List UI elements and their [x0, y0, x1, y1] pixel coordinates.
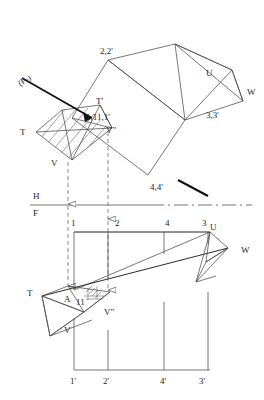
- station-label-2: 2: [115, 218, 120, 228]
- projection-figure: (P-) 2,2' 3,3' 4,4' 1,11,1' T' V" T V U …: [0, 0, 264, 400]
- front-label-v: V: [64, 325, 71, 335]
- station-label-3-prime: 3': [199, 376, 206, 386]
- station-label-2-prime: 2': [103, 376, 110, 386]
- technical-drawing-canvas: (P-) 2,2' 3,3' 4,4' 1,11,1' T' V" T V U …: [0, 0, 264, 400]
- label-u-top: U: [206, 68, 213, 78]
- front-label-v-dprime: V": [104, 307, 114, 317]
- label-w-top: W: [247, 87, 256, 97]
- front-label-a: A: [64, 294, 71, 304]
- front-label-t: T: [27, 288, 33, 298]
- label-v-top: V: [51, 158, 58, 168]
- label-t-prime-top: T': [96, 96, 103, 106]
- label-t-top: T: [20, 127, 26, 137]
- front-label-11: 11: [76, 297, 85, 307]
- label-1-11-1prime: 1,11,1': [86, 112, 110, 122]
- station-label-1-prime: 1': [70, 376, 77, 386]
- ground-line-label-f: F: [33, 208, 38, 218]
- station-label-1: 1: [71, 218, 76, 228]
- front-label-w: W: [241, 245, 250, 255]
- canvas-background: [0, 0, 264, 400]
- label-v-dprime-top: V": [106, 125, 116, 135]
- label-4-4prime: 4,4': [150, 182, 163, 192]
- label-3-3prime: 3,3': [206, 110, 219, 120]
- station-label-4-prime: 4': [160, 376, 167, 386]
- front-label-u: U: [210, 222, 217, 232]
- station-label-4: 4: [165, 218, 170, 228]
- label-2-2prime: 2,2': [100, 46, 113, 56]
- station-label-3: 3: [202, 218, 207, 228]
- ground-line-label-h: H: [33, 191, 40, 201]
